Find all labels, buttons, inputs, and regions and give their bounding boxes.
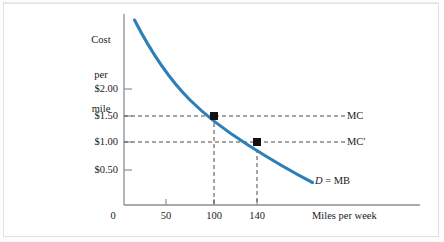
x-axis-ticks — [166, 199, 257, 205]
marker-equilibrium-mc-prime — [253, 138, 261, 146]
marker-equilibrium-mc — [210, 112, 218, 120]
y-axis-ticks — [124, 89, 132, 170]
plot-area — [0, 0, 444, 242]
figure-container: Cost per mile $2.00 $1.50 $1.00 $0.50 0 … — [0, 0, 444, 242]
demand-curve — [135, 20, 313, 183]
